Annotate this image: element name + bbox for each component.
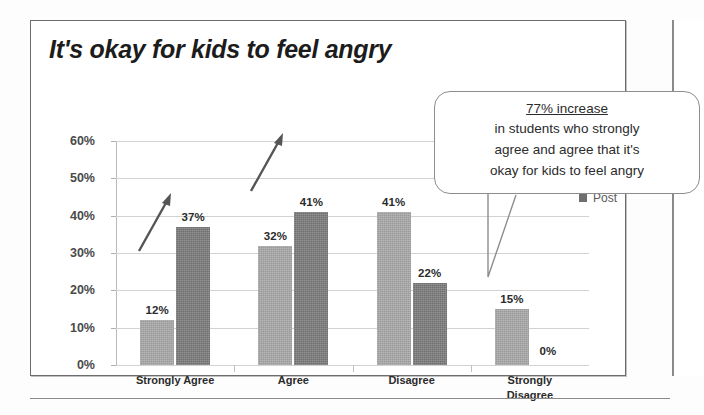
y-axis-tick-label: 0% bbox=[49, 358, 95, 372]
category-label-1: Agree bbox=[234, 373, 352, 388]
category-label-2: Disagree bbox=[353, 373, 471, 388]
y-axis-tick-label: 30% bbox=[49, 246, 95, 260]
bar-label-pre-2: 41% bbox=[369, 196, 419, 208]
bar-label-post-3: 0% bbox=[523, 345, 573, 357]
callout-box: 77% increase in students who strongly ag… bbox=[434, 91, 700, 194]
bar-label-post-2: 22% bbox=[405, 267, 455, 279]
next-slide-divider bbox=[30, 398, 670, 399]
category-divider bbox=[353, 365, 354, 372]
category-label-line: Disagree bbox=[353, 373, 471, 388]
y-axis-tickmark bbox=[111, 178, 116, 179]
trend-arrow-strongly-agree bbox=[134, 191, 176, 255]
y-axis-tick-label: 40% bbox=[49, 209, 95, 223]
y-axis-tick-label: 50% bbox=[49, 171, 95, 185]
category-label-line: Disagree bbox=[471, 388, 589, 403]
category-label-line: Strongly bbox=[471, 373, 589, 388]
bar-label-pre-0: 12% bbox=[132, 304, 182, 316]
category-divider bbox=[234, 365, 235, 372]
callout-line-2: agree and agree that it's bbox=[435, 139, 699, 160]
adjacent-slide-edge bbox=[672, 20, 704, 376]
y-axis-tick-label: 10% bbox=[49, 321, 95, 335]
callout-pointer-tail bbox=[486, 189, 548, 281]
category-label-line: Strongly Agree bbox=[116, 373, 234, 388]
bar-pre-0 bbox=[140, 320, 174, 365]
bar-post-1 bbox=[294, 212, 328, 365]
y-axis-tickmark bbox=[111, 365, 116, 366]
page-title: It's okay for kids to feel angry bbox=[49, 35, 391, 64]
screenshot-page: It's okay for kids to feel angry 0%10%20… bbox=[0, 0, 704, 415]
bar-post-2 bbox=[413, 283, 447, 365]
bar-label-post-1: 41% bbox=[286, 196, 336, 208]
category-divider bbox=[471, 365, 472, 372]
bar-pre-1 bbox=[258, 246, 292, 365]
y-axis-tickmark bbox=[111, 253, 116, 254]
y-axis-tickmark bbox=[111, 141, 116, 142]
callout-line-3: okay for kids to feel angry bbox=[435, 160, 699, 181]
bar-post-0 bbox=[176, 227, 210, 365]
bar-label-pre-1: 32% bbox=[250, 230, 300, 242]
category-label-line: Agree bbox=[234, 373, 352, 388]
y-axis-tickmark bbox=[111, 216, 116, 217]
bar-label-pre-3: 15% bbox=[487, 293, 537, 305]
y-axis-tickmark bbox=[111, 290, 116, 291]
trend-arrow-agree bbox=[246, 131, 288, 195]
bar-pre-2 bbox=[377, 212, 411, 365]
callout-heading: 77% increase bbox=[435, 99, 699, 118]
slide-frame: It's okay for kids to feel angry 0%10%20… bbox=[30, 20, 626, 376]
y-axis-tick-label: 20% bbox=[49, 283, 95, 297]
category-label-0: Strongly Agree bbox=[116, 373, 234, 388]
callout-line-1: in students who strongly bbox=[435, 118, 699, 139]
legend-swatch-post bbox=[579, 194, 587, 202]
y-axis-tickmark bbox=[111, 328, 116, 329]
y-axis-tick-label: 60% bbox=[49, 134, 95, 148]
